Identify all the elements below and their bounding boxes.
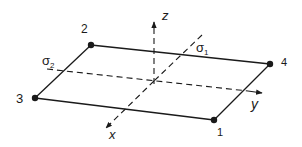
sigma1-label: σ1 xyxy=(196,40,209,57)
edge-2-4 xyxy=(91,45,270,64)
node-dot-2 xyxy=(88,42,94,48)
sigma1-line xyxy=(154,35,202,81)
y-axis-label: y xyxy=(250,96,259,112)
node-label-4: 4 xyxy=(281,56,287,68)
edge-1-3 xyxy=(35,98,214,120)
sigma1-subscript: 1 xyxy=(204,48,209,57)
node-label-3: 3 xyxy=(16,91,23,106)
sigma2-symbol: σ xyxy=(42,53,50,68)
node-dot-4 xyxy=(267,61,273,67)
edge-4-1 xyxy=(214,64,270,120)
y-axis-arrow xyxy=(248,91,262,93)
sigma2-subscript: 2 xyxy=(50,61,55,70)
x-axis-label: x xyxy=(108,127,116,142)
node-dot-3 xyxy=(32,95,38,101)
sigma2-line xyxy=(47,69,248,91)
node-label-1: 1 xyxy=(217,126,223,138)
sigma2-label: σ2 xyxy=(42,53,55,70)
sigma1-symbol: σ xyxy=(196,40,204,55)
plate-element-diagram: 1 2 3 4 z y x σ1 σ2 xyxy=(0,0,302,147)
node-label-2: 2 xyxy=(81,22,88,36)
z-axis-label: z xyxy=(161,8,169,23)
node-dot-1 xyxy=(211,117,217,123)
x-axis xyxy=(106,81,154,128)
